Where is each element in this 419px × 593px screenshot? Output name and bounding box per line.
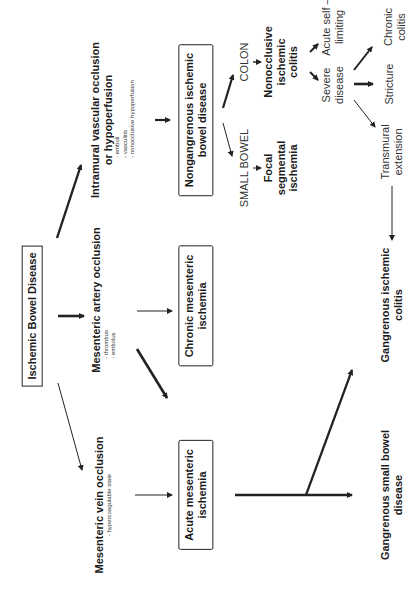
nongangrenous-line1: Nongangrenous ischemic	[183, 53, 196, 187]
chronic-line2: ischemia	[196, 255, 209, 358]
colon-text: COLON	[238, 42, 250, 81]
gangrenous-colitis-line1: Gangrenous ischemic	[379, 248, 392, 363]
intramural-item-vasculitis: - vasculitis	[122, 42, 130, 198]
vein-cause: Mesenteric vein occlusion - hypercoagula…	[93, 437, 113, 574]
vein-title: Mesenteric vein occlusion	[93, 437, 106, 574]
nongangrenous-line2: bowel disease	[196, 53, 209, 187]
small-bowel-text: SMALL BOWEL	[238, 129, 250, 207]
intramural-item-nonocclusive: - nonocclusive hypoperfusion	[129, 42, 137, 198]
chronic-line1: Chronic mesenteric	[183, 255, 196, 358]
chronic-colitis: Chronic colitis	[382, 8, 407, 46]
acute-line1: Acute mesenteric	[183, 449, 196, 541]
chronic-colitis-line2: colitis	[395, 8, 408, 46]
gangrenous-sb-line1: Gangrenous small bowel	[379, 430, 392, 560]
gangrenous-colitis-line2: colitis	[392, 248, 405, 363]
acute-mesenteric-box: Acute mesenteric ischemia	[178, 440, 213, 550]
small-bowel-label: SMALL BOWEL	[238, 129, 251, 207]
ischemic-bowel-disease-flowchart: Ischemic Bowel Disease Intramural vascul…	[0, 0, 419, 593]
artery-item-embolus: - embolus	[110, 227, 118, 373]
acute-self-line2: limiting	[333, 0, 346, 56]
gangrenous-ischemic-colitis: Gangrenous ischemic colitis	[379, 248, 404, 363]
artery-cause: Mesenteric artery occlusion - thrombus -…	[90, 227, 118, 373]
acute-self-line1: Acute self –	[320, 0, 333, 56]
stricture-text: Stricture	[383, 64, 395, 105]
stricture: Stricture	[383, 64, 396, 105]
vein-item-hypercoagulable: - hypercoagulable state	[106, 437, 114, 574]
focal-line1: Focal	[262, 141, 275, 195]
nonocclusive-line2: ischemic	[275, 26, 288, 98]
severe-line1: Severe	[320, 66, 333, 104]
artery-item-thrombus: - thrombus	[103, 227, 111, 373]
root-label: Ischemic Bowel Disease	[26, 252, 38, 379]
chronic-mesenteric-box: Chronic mesenteric ischemia	[178, 246, 213, 367]
focal-line3: ischemia	[287, 141, 300, 195]
transmural-line1: Transmural	[379, 124, 392, 179]
nongangrenous-box: Nongangrenous ischemic bowel disease	[178, 44, 213, 196]
intramural-item-emboli: - emboli	[114, 42, 122, 198]
nonocclusive-colitis: Nonocclusive ischemic colitis	[262, 26, 300, 98]
gangrenous-small-bowel-disease: Gangrenous small bowel disease	[379, 430, 404, 560]
nonocclusive-line1: Nonocclusive	[262, 26, 275, 98]
intramural-title-line2: or hypoperfusion	[102, 42, 115, 198]
intramural-cause: Intramural vascular occlusion or hypoper…	[89, 42, 137, 198]
root-box: Ischemic Bowel Disease	[22, 245, 43, 386]
nonocclusive-line3: colitis	[287, 26, 300, 98]
gangrenous-sb-line2: disease	[392, 430, 405, 560]
severe-disease: Severe disease	[320, 66, 345, 104]
transmural-extension: Transmural extension	[379, 124, 404, 179]
acute-self-limiting: Acute self – limiting	[320, 0, 345, 56]
chronic-colitis-line1: Chronic	[382, 8, 395, 46]
focal-segmental-ischemia: Focal segmental ischemia	[262, 141, 300, 195]
focal-line2: segmental	[275, 141, 288, 195]
artery-title: Mesenteric artery occlusion	[90, 227, 103, 373]
colon-label: COLON	[238, 42, 251, 81]
severe-line2: disease	[333, 66, 346, 104]
transmural-line2: extension	[392, 124, 405, 179]
intramural-title-line1: Intramural vascular occlusion	[89, 42, 102, 198]
acute-line2: ischemia	[196, 449, 209, 541]
